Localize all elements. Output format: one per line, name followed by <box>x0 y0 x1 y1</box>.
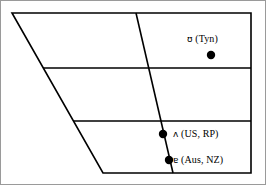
data-label-us-rp: ʌ (US, RP) <box>173 129 219 139</box>
variety-text-aus-nz: (Aus, NZ) <box>179 154 224 165</box>
vowel-quadrilateral-svg <box>1 1 266 185</box>
data-point-0 <box>207 51 215 59</box>
data-point-2 <box>165 156 173 164</box>
data-point-1 <box>159 130 167 138</box>
variety-text-us-rp: (US, RP) <box>178 128 218 139</box>
diagonal-divider-0 <box>136 13 173 173</box>
vowel-chart-figure: ʊ (Tyn) ʌ (US, RP) ɐ (Aus, NZ) <box>0 0 266 185</box>
variety-text-tyn: (Tyn) <box>193 33 218 44</box>
data-label-aus-nz: ɐ (Aus, NZ) <box>173 155 223 165</box>
data-label-tyn: ʊ (Tyn) <box>187 34 218 44</box>
